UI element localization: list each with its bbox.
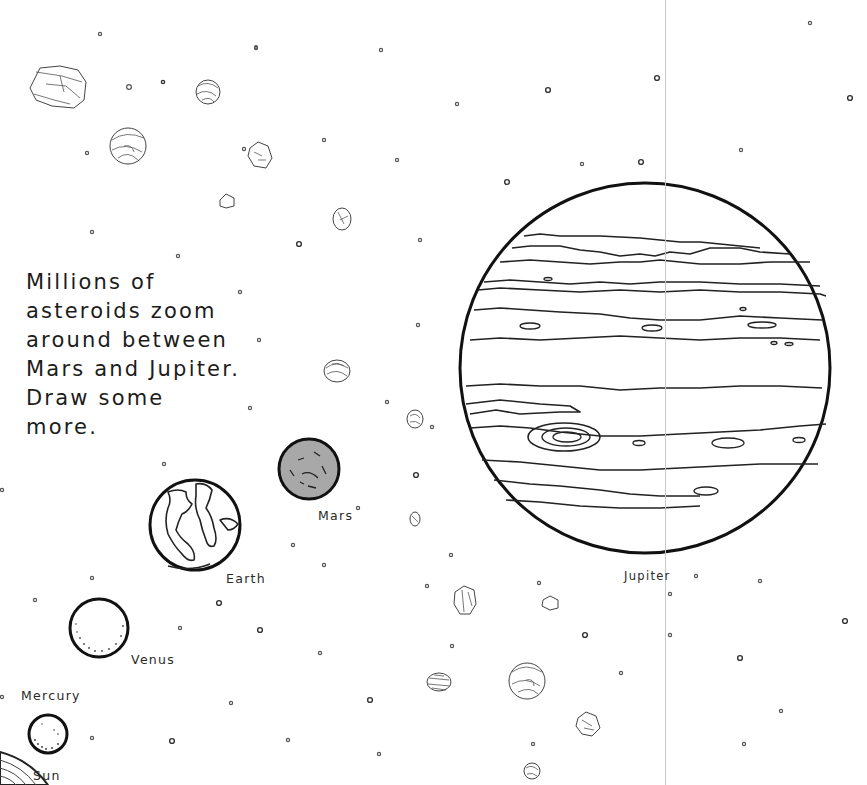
asteroid-rock — [248, 142, 272, 168]
asteroid-striped — [427, 673, 451, 691]
asteroid-rock — [454, 586, 476, 614]
mars — [279, 439, 339, 499]
asteroid-boulder — [30, 66, 86, 108]
asteroid-swirl — [407, 410, 423, 428]
asteroid-swirl — [524, 763, 540, 779]
asteroid-swirl — [509, 663, 545, 699]
instruction-text: Millions of asteroids zoom around betwee… — [26, 268, 240, 442]
venus-label: Venus — [131, 652, 175, 667]
asteroid-small — [410, 512, 420, 526]
asteroid-rock — [576, 712, 600, 736]
venus — [70, 599, 128, 657]
asteroid-swirl — [324, 360, 350, 382]
asteroid-rock — [333, 208, 351, 230]
asteroid-small — [542, 596, 558, 610]
sun-label: Sun — [33, 768, 61, 783]
mercury — [29, 715, 67, 753]
asteroid-small — [220, 194, 234, 208]
earth-label: Earth — [226, 571, 266, 586]
mercury-label: Mercury — [21, 688, 81, 703]
earth — [150, 480, 240, 570]
mars-label: Mars — [318, 508, 353, 523]
jupiter-label: Jupiter — [624, 569, 671, 583]
asteroid-swirl — [110, 128, 146, 164]
asteroid-swirl — [196, 80, 220, 104]
jupiter — [460, 183, 830, 553]
page-fold-line — [665, 0, 666, 785]
